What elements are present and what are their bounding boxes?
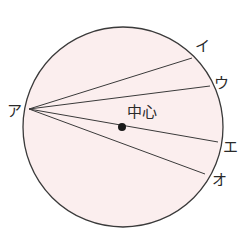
label-i: イ (195, 37, 210, 55)
label-e: エ (223, 138, 238, 156)
label-o: オ (212, 171, 227, 189)
label-a: ア (7, 102, 22, 120)
center-point (118, 123, 126, 131)
circle-diagram: ア イ ウ エ オ 中心 (0, 0, 249, 244)
center-label: 中心 (127, 103, 157, 121)
label-u: ウ (214, 74, 229, 92)
